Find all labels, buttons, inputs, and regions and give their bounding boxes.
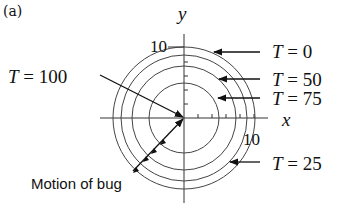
label-value: 50 (303, 69, 322, 90)
y-tick-label: 10 (150, 38, 167, 55)
contour-diagram: (a) y x 10 10 T = 0 T = 50 T = 75 T = 25… (0, 0, 352, 203)
y-axis-label: y (178, 4, 186, 23)
x-ticks (198, 114, 254, 118)
label-value: 0 (303, 41, 313, 62)
label-var: T (272, 69, 283, 90)
label-var: T (272, 41, 283, 62)
x-tick-label: 10 (243, 131, 260, 148)
x-axis-label: x (282, 110, 290, 129)
panel-label: (a) (3, 4, 22, 18)
label-t50: T = 50 (272, 70, 322, 89)
label-value: 100 (39, 66, 68, 87)
label-value: 25 (303, 153, 322, 174)
arrow-t100 (100, 75, 183, 117)
label-t75: T = 75 (272, 89, 322, 108)
label-t100: T = 100 (8, 67, 67, 86)
label-value: 75 (303, 88, 322, 109)
label-var: T (272, 88, 283, 109)
label-t25: T = 25 (272, 154, 322, 173)
label-var: T (272, 153, 283, 174)
label-t0: T = 0 (272, 42, 312, 61)
label-var: T (8, 66, 19, 87)
motion-caption: Motion of bug (31, 176, 122, 191)
